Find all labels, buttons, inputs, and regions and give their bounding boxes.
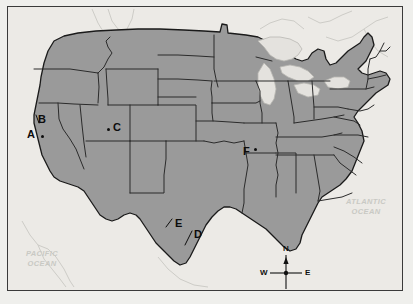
point-dot-F [254,148,257,151]
us-landmass [34,24,390,265]
point-label-A: A [27,129,35,140]
compass-rose-graphic [270,255,302,289]
point-label-D: D [194,229,202,240]
point-label-F: F [243,146,250,157]
compass-west-label: W [260,269,268,277]
point-label-E: E [175,218,182,229]
point-dot-C [107,128,110,131]
atlantic-ocean-line1: ATLANTIC [338,197,394,207]
pacific-ocean-label: PACIFIC OCEAN [16,249,68,269]
compass-east-label: E [305,269,310,277]
atlantic-ocean-line2: OCEAN [338,207,394,217]
pacific-ocean-line1: PACIFIC [16,249,68,259]
us-map-graphic [8,7,401,289]
atlantic-ocean-label: ATLANTIC OCEAN [338,197,394,217]
map-screenshot: A B C D E F PACIFIC OCEAN ATLANTIC OCEAN [0,0,413,304]
point-label-B: B [38,114,46,125]
map-frame: A B C D E F PACIFIC OCEAN ATLANTIC OCEAN [7,6,403,291]
point-dot-A [41,135,44,138]
point-label-C: C [113,122,121,133]
compass-north-label: N [283,245,289,253]
pacific-ocean-line2: OCEAN [16,259,68,269]
